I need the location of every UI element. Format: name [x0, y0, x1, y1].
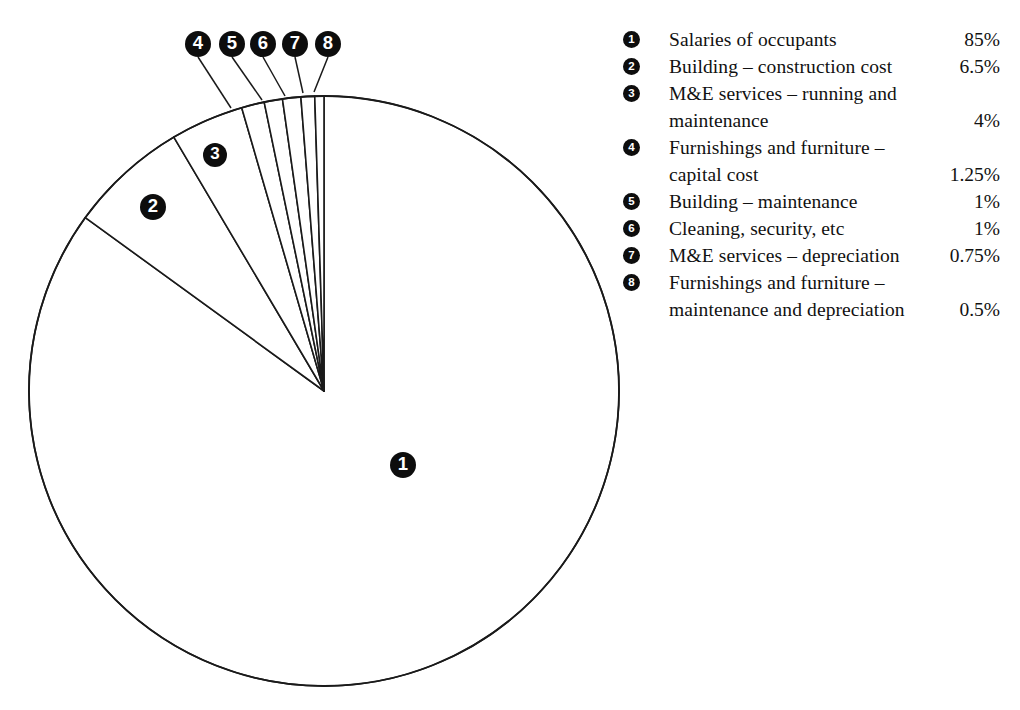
- legend-value: 1.25%: [950, 161, 1000, 188]
- legend-label: maintenance and depreciation: [669, 296, 905, 323]
- legend-value: 85%: [964, 26, 1000, 53]
- pie-chart-figure: 12345678 1Salaries of occupants85%2Build…: [0, 0, 1020, 710]
- legend-row: 1Salaries of occupants85%: [618, 26, 1010, 53]
- legend-label: Salaries of occupants: [669, 26, 837, 53]
- marker-number: 3: [210, 144, 219, 163]
- leader-line-6: [263, 57, 285, 96]
- chart-legend: 1Salaries of occupants85%2Building – con…: [618, 26, 1010, 323]
- marker-number: 8: [323, 32, 333, 53]
- legend-row: 7M&E services – depreciation0.75%: [618, 242, 1010, 269]
- pie-callout-marker-5: 5: [219, 31, 245, 57]
- legend-row: 4Furnishings and furniture –: [618, 134, 1010, 161]
- legend-value: 4%: [974, 107, 1000, 134]
- legend-label: capital cost: [669, 161, 758, 188]
- legend-marker-4: 4: [623, 139, 640, 156]
- legend-value: 6.5%: [959, 53, 1000, 80]
- legend-value: 1%: [974, 215, 1000, 242]
- marker-number: 7: [290, 32, 300, 53]
- legend-label: Furnishings and furniture –: [669, 134, 885, 161]
- legend-value: 0.5%: [959, 296, 1000, 323]
- marker-number: 6: [258, 32, 268, 53]
- pie-callout-marker-8: 8: [315, 31, 341, 57]
- pie-chart-graphic: 12345678: [0, 0, 660, 710]
- legend-marker-1: 1: [623, 31, 640, 48]
- leader-line-7: [295, 57, 303, 93]
- marker-number: 1: [398, 453, 408, 474]
- pie-marker-3: 3: [203, 143, 227, 167]
- legend-marker-6: 6: [623, 220, 640, 237]
- legend-row: 3M&E services – running and: [618, 80, 1010, 107]
- legend-label: Building – maintenance: [669, 188, 858, 215]
- pie-callout-marker-4: 4: [185, 31, 211, 57]
- legend-marker-2: 2: [623, 58, 640, 75]
- legend-label: M&E services – running and: [669, 80, 897, 107]
- legend-row: capital cost1.25%: [618, 161, 1010, 188]
- marker-number: 5: [227, 32, 237, 53]
- marker-number: 4: [193, 32, 204, 53]
- pie-callout-marker-6: 6: [250, 31, 276, 57]
- legend-label: M&E services – depreciation: [669, 242, 900, 269]
- leader-line-4: [198, 57, 231, 108]
- pie-slices-group: [29, 96, 619, 686]
- leader-line-5: [232, 57, 262, 100]
- legend-row: 5Building – maintenance1%: [618, 188, 1010, 215]
- legend-marker-8: 8: [623, 274, 640, 291]
- legend-marker-5: 5: [623, 193, 640, 210]
- legend-row: maintenance and depreciation0.5%: [618, 296, 1010, 323]
- legend-marker-3: 3: [623, 85, 640, 102]
- legend-value: 1%: [974, 188, 1000, 215]
- legend-row: 6Cleaning, security, etc1%: [618, 215, 1010, 242]
- marker-number: 2: [148, 195, 158, 216]
- legend-row: 2Building – construction cost6.5%: [618, 53, 1010, 80]
- legend-label: maintenance: [669, 107, 769, 134]
- legend-row: maintenance4%: [618, 107, 1010, 134]
- pie-callout-marker-7: 7: [282, 31, 308, 57]
- pie-marker-2: 2: [140, 194, 166, 220]
- legend-label: Furnishings and furniture –: [669, 269, 885, 296]
- pie-marker-1: 1: [390, 452, 416, 478]
- legend-marker-7: 7: [623, 247, 640, 264]
- leader-line-8: [314, 57, 328, 92]
- legend-value: 0.75%: [950, 242, 1000, 269]
- legend-label: Cleaning, security, etc: [669, 215, 844, 242]
- legend-row: 8Furnishings and furniture –: [618, 269, 1010, 296]
- legend-label: Building – construction cost: [669, 53, 892, 80]
